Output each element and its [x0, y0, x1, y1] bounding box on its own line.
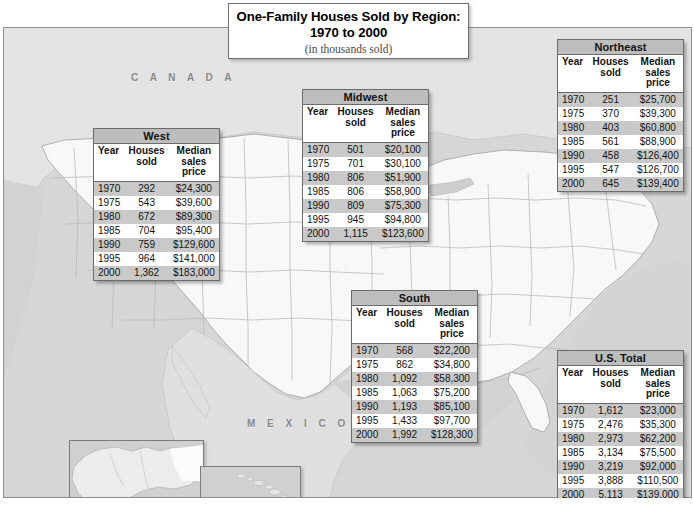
table-row: 19701,612$23,000	[558, 403, 683, 418]
table-row: 1990458$126,400	[558, 149, 683, 163]
table-title: West	[94, 129, 219, 144]
inset-alaska: Alaska	[69, 440, 204, 498]
data-table-west: West Year Housessold Mediansales price 1…	[93, 128, 220, 281]
page-bottom-margin	[0, 498, 694, 511]
table-header-row: Year Housessold Mediansales price	[303, 105, 428, 143]
table-header-row: Year Housessold Mediansales price	[94, 144, 219, 182]
table-row: 1980672$89,300	[94, 210, 219, 224]
table-row: 19953,888$110,500	[558, 474, 683, 488]
column-header-median-price: Mediansales price	[378, 105, 428, 143]
table-row: 20001,992$128,300	[352, 428, 477, 442]
table-row: 2000645$139,400	[558, 177, 683, 191]
table-row: 19901,193$85,100	[352, 400, 477, 414]
table-row: 1985806$58,900	[303, 185, 428, 199]
column-header-year: Year	[558, 55, 589, 93]
table-title-row: West	[94, 129, 219, 144]
page-subtitle: (in thousands sold)	[229, 43, 468, 55]
table-south: South Year Housessold Mediansales price …	[352, 291, 477, 442]
table-title-row: Midwest	[303, 90, 428, 105]
title-line-1: One-Family Houses Sold by Region:	[237, 9, 461, 24]
table-title: South	[352, 291, 477, 306]
table-row: 20001,115$123,600	[303, 227, 428, 241]
hawaii-map-graphic	[201, 467, 301, 498]
alaska-map-graphic	[70, 441, 204, 498]
table-row: 1970568$22,200	[352, 343, 477, 358]
table-header-row: Year Housessold Mediansales price	[558, 366, 683, 404]
table-row: 1995547$126,700	[558, 163, 683, 177]
table-row: 1990759$129,600	[94, 238, 219, 252]
table-title-row: South	[352, 291, 477, 306]
table-title: Midwest	[303, 90, 428, 105]
florida-peninsula	[508, 372, 550, 432]
table-northeast: Northeast Year Housessold Mediansales pr…	[558, 40, 683, 191]
column-header-year: Year	[352, 306, 383, 344]
table-row: 1970251$25,700	[558, 92, 683, 107]
column-header-houses-sold: Housessold	[125, 144, 169, 182]
column-header-houses-sold: Housessold	[589, 55, 633, 93]
table-row: 1975543$39,600	[94, 196, 219, 210]
data-table-south: South Year Housessold Mediansales price …	[351, 290, 478, 443]
table-row: 1990809$75,300	[303, 199, 428, 213]
pacific-ocean	[4, 178, 44, 408]
column-header-houses-sold: Housessold	[334, 105, 378, 143]
table-row: 1975701$30,100	[303, 157, 428, 171]
table-row: 19801,092$58,300	[352, 372, 477, 386]
table-title: Northeast	[558, 40, 683, 55]
table-row: 1980806$51,900	[303, 171, 428, 185]
map-label-mexico: M E X I C O	[247, 418, 350, 429]
table-row: 19853,134$75,500	[558, 446, 683, 460]
table-row: 19802,973$62,200	[558, 432, 683, 446]
column-header-median-price: Mediansales price	[427, 306, 477, 344]
chart-title-box: One-Family Houses Sold by Region: 1970 t…	[228, 3, 469, 59]
table-row: 1970292$24,300	[94, 181, 219, 196]
table-row: 19752,476$35,300	[558, 418, 683, 432]
table-row: 1975370$39,300	[558, 107, 683, 121]
table-row: 1980403$60,800	[558, 121, 683, 135]
column-header-median-price: Mediansales price	[633, 366, 683, 404]
table-row: 1970501$20,100	[303, 142, 428, 157]
inset-hawaii: Hawaii	[200, 466, 301, 498]
table-us-total: U.S. Total Year Housessold Mediansales p…	[558, 351, 683, 502]
table-header-row: Year Housessold Mediansales price	[352, 306, 477, 344]
column-header-year: Year	[94, 144, 125, 182]
table-row: 19951,433$97,700	[352, 414, 477, 428]
table-row: 19903,219$92,000	[558, 460, 683, 474]
column-header-median-price: Mediansales price	[169, 144, 219, 182]
table-title: U.S. Total	[558, 351, 683, 366]
column-header-year: Year	[303, 105, 334, 143]
table-title-row: U.S. Total	[558, 351, 683, 366]
data-table-us-total: U.S. Total Year Housessold Mediansales p…	[557, 350, 684, 503]
table-row: 20001,362$183,000	[94, 266, 219, 280]
table-row: 19851,063$75,200	[352, 386, 477, 400]
column-header-median-price: Mediansales price	[633, 55, 683, 93]
page-title: One-Family Houses Sold by Region: 1970 t…	[229, 9, 468, 40]
map-infographic: C A N A D A M E X I C O Alaska	[0, 0, 694, 511]
column-header-houses-sold: Housessold	[383, 306, 427, 344]
table-west: West Year Housessold Mediansales price 1…	[94, 129, 219, 280]
column-header-year: Year	[558, 366, 589, 404]
data-table-midwest: Midwest Year Housessold Mediansales pric…	[302, 89, 429, 242]
data-table-northeast: Northeast Year Housessold Mediansales pr…	[557, 39, 684, 192]
table-title-row: Northeast	[558, 40, 683, 55]
table-row: 1975862$34,800	[352, 358, 477, 372]
table-row: 1995964$141,000	[94, 252, 219, 266]
map-label-canada: C A N A D A	[131, 72, 236, 83]
table-row: 1985704$95,400	[94, 224, 219, 238]
table-row: 1995945$94,800	[303, 213, 428, 227]
title-line-2: 1970 to 2000	[310, 25, 387, 40]
table-midwest: Midwest Year Housessold Mediansales pric…	[303, 90, 428, 241]
table-header-row: Year Housessold Mediansales price	[558, 55, 683, 93]
column-header-houses-sold: Housessold	[589, 366, 633, 404]
table-row: 1985561$88,900	[558, 135, 683, 149]
